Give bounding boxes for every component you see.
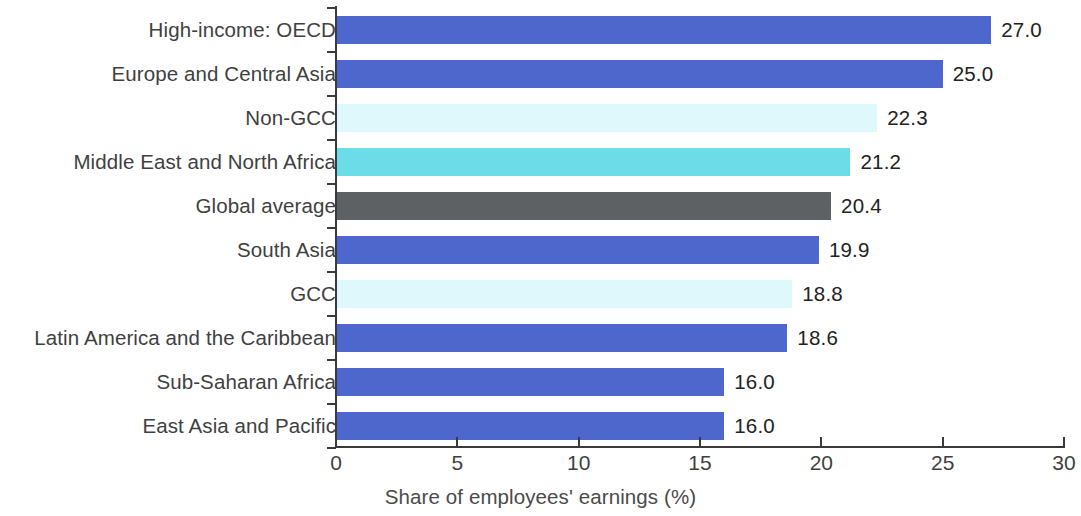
bar-track: 18.6 [336, 316, 1081, 360]
y-axis-tick [327, 95, 336, 97]
x-axis-tick [820, 437, 822, 448]
y-axis-tick [327, 271, 336, 273]
category-label: Middle East and North Africa [73, 140, 336, 184]
category-label: East Asia and Pacific [142, 404, 336, 448]
x-axis-tick [699, 437, 701, 448]
bar-row: Europe and Central Asia25.0 [0, 52, 1081, 96]
bar-track: 18.8 [336, 272, 1081, 316]
y-axis-tick [327, 183, 336, 185]
bar-value-label: 16.0 [734, 404, 775, 448]
bar-value-label: 19.9 [829, 228, 870, 272]
bar-row: High-income: OECD27.0 [0, 8, 1081, 52]
bar-track: 16.0 [336, 404, 1081, 448]
x-axis-tick-label: 30 [1052, 451, 1075, 475]
y-axis-tick [327, 403, 336, 405]
x-axis-tick [1063, 437, 1065, 448]
bar[interactable] [336, 104, 877, 132]
category-label: Europe and Central Asia [111, 52, 336, 96]
category-label: South Asia [237, 228, 336, 272]
y-axis-tick [327, 7, 336, 9]
bar-track: 16.0 [336, 360, 1081, 404]
y-axis-tick [327, 139, 336, 141]
bar-track: 25.0 [336, 52, 1081, 96]
bar-track: 27.0 [336, 8, 1081, 52]
bar-track: 19.9 [336, 228, 1081, 272]
x-axis-tick-label: 10 [567, 451, 590, 475]
bar-row: East Asia and Pacific16.0 [0, 404, 1081, 448]
x-axis-tick-label: 25 [931, 451, 954, 475]
bar-value-label: 16.0 [734, 360, 775, 404]
category-label: Sub-Saharan Africa [156, 360, 336, 404]
x-axis-tick [942, 437, 944, 448]
bar-value-label: 18.6 [797, 316, 838, 360]
bar-row: Global average20.4 [0, 184, 1081, 228]
x-axis-tick-label: 5 [451, 451, 463, 475]
y-axis-tick [327, 51, 336, 53]
bar-row: Non-GCC22.3 [0, 96, 1081, 140]
category-label: Latin America and the Caribbean [34, 316, 336, 360]
bar[interactable] [336, 148, 850, 176]
y-axis-tick [327, 359, 336, 361]
bar-row: Latin America and the Caribbean18.6 [0, 316, 1081, 360]
bar-track: 22.3 [336, 96, 1081, 140]
bar[interactable] [336, 236, 819, 264]
category-label: Global average [196, 184, 336, 228]
bar[interactable] [336, 192, 831, 220]
bar-value-label: 22.3 [887, 96, 928, 140]
bar-value-label: 18.8 [802, 272, 843, 316]
x-axis-tick [578, 437, 580, 448]
category-label: GCC [290, 272, 336, 316]
x-axis-tick [456, 437, 458, 448]
category-label: Non-GCC [245, 96, 336, 140]
bar-row: Middle East and North Africa21.2 [0, 140, 1081, 184]
bar[interactable] [336, 324, 787, 352]
bar-value-label: 20.4 [841, 184, 882, 228]
x-axis-title: Share of employees' earnings (%) [0, 485, 1081, 509]
bar-value-label: 27.0 [1001, 8, 1042, 52]
bar-rows: High-income: OECD27.0Europe and Central … [0, 8, 1081, 448]
x-axis-tick-label: 15 [688, 451, 711, 475]
bar[interactable] [336, 16, 991, 44]
bar[interactable] [336, 368, 724, 396]
horizontal-bar-chart: High-income: OECD27.0Europe and Central … [0, 0, 1081, 516]
bar-row: Sub-Saharan Africa16.0 [0, 360, 1081, 404]
x-axis-tick-label: 20 [810, 451, 833, 475]
bar-row: South Asia19.9 [0, 228, 1081, 272]
category-label: High-income: OECD [149, 8, 336, 52]
bar-track: 21.2 [336, 140, 1081, 184]
bar[interactable] [336, 412, 724, 440]
bar[interactable] [336, 280, 792, 308]
y-axis-tick [327, 315, 336, 317]
bar-track: 20.4 [336, 184, 1081, 228]
bar-value-label: 25.0 [953, 52, 994, 96]
bar[interactable] [336, 60, 943, 88]
y-axis-tick [327, 227, 336, 229]
bar-value-label: 21.2 [860, 140, 901, 184]
bar-row: GCC18.8 [0, 272, 1081, 316]
x-axis-tick-label: 0 [330, 451, 342, 475]
x-axis-tick [335, 437, 337, 448]
